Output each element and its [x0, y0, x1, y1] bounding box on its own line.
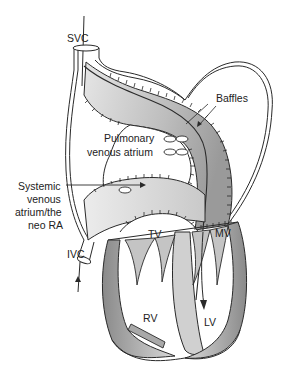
systemic-venous-atrium-label-3: atrium/the	[15, 206, 62, 218]
svc-opening	[73, 45, 99, 51]
mitral-valve-leaflet	[192, 230, 210, 285]
ivc-label: IVC	[67, 248, 85, 260]
pulmonary-vein-opening	[176, 149, 188, 155]
pulmonary-venous-atrium-label-2: venous atrium	[87, 146, 153, 158]
rv-label: RV	[143, 312, 157, 324]
svc-label: SVC	[67, 32, 89, 44]
systemic-venous-atrium-label-2: venous	[27, 193, 61, 205]
pulmonary-vein-opening	[164, 136, 176, 142]
tv-label: TV	[148, 228, 161, 240]
baffles-label: Baffles	[216, 92, 248, 104]
atrium-outer-wall	[66, 48, 84, 240]
systemic-venous-atrium-label-4: neo RA	[28, 219, 63, 231]
systemic-venous-atrium-label-1: Systemic	[18, 180, 61, 192]
pulmonary-vein-opening	[176, 136, 188, 142]
tricuspid-valve-leaflet	[125, 238, 155, 285]
mv-label: MV	[215, 227, 231, 239]
pulmonary-vein-opening	[164, 149, 176, 155]
coronary-sinus-opening	[119, 187, 131, 193]
lv-label: LV	[204, 316, 216, 328]
pulmonary-venous-atrium-label-1: Pulmonary	[104, 132, 154, 144]
